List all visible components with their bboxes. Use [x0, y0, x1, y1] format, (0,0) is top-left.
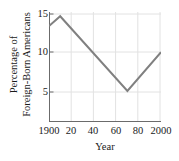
x-tick-label-2000: 2000 — [147, 126, 175, 137]
plot-area — [49, 12, 161, 122]
y-tick-label-10: 10 — [24, 47, 48, 58]
vertical-gridlines — [71, 12, 160, 122]
x-tick-label-1960: 60 — [105, 126, 127, 137]
x-tick-label-1940: 40 — [82, 126, 104, 137]
x-axis — [49, 122, 161, 123]
x-tick-label-1920: 20 — [60, 126, 82, 137]
y-tick-label-5: 5 — [24, 87, 48, 98]
foreign-born-americans-line-chart: Percentage of Foreign-Born Americans 15 … — [0, 0, 179, 161]
x-tick-label-1980: 80 — [127, 126, 149, 137]
y-axis — [50, 12, 54, 122]
x-tick-label-1900: 1900 — [35, 126, 63, 137]
horizontal-gridlines — [49, 14, 161, 92]
data-series-line — [49, 16, 161, 91]
y-axis-title-line-1: Percentage of — [8, 12, 21, 117]
plot-svg — [49, 12, 161, 122]
y-tick-label-15: 15 — [24, 9, 48, 20]
x-axis-title: Year — [49, 141, 161, 152]
y-axis-title-line-2: Foreign-Born Americans — [20, 12, 33, 117]
